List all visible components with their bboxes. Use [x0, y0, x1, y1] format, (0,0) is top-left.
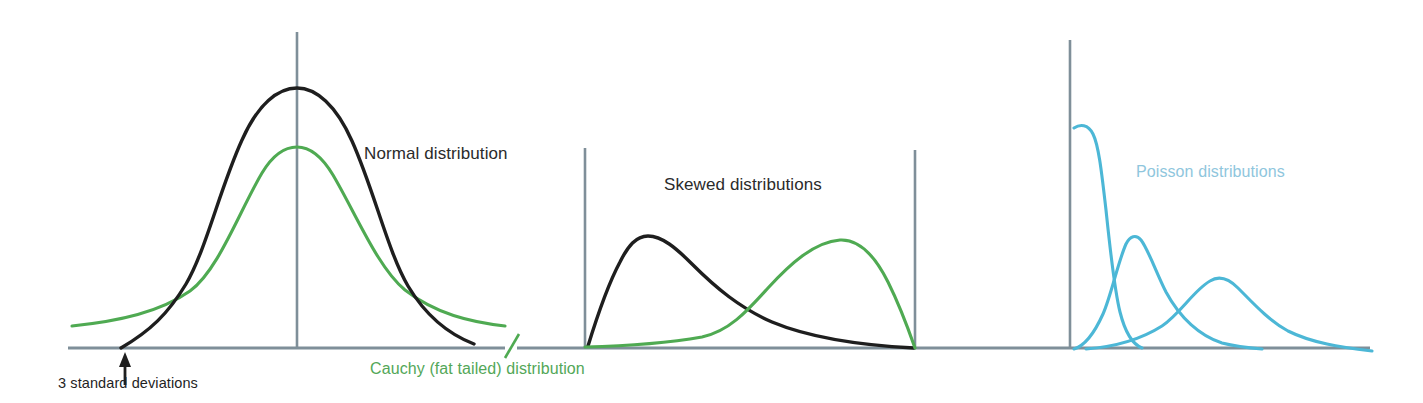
normal-distribution-label: Normal distribution: [364, 144, 508, 164]
arrow-head: [119, 352, 131, 367]
standard-deviations-label: 3 standard deviations: [58, 375, 198, 391]
baseline-axis: [68, 334, 1370, 358]
distributions-figure: Normal distribution Skewed distributions…: [0, 0, 1423, 403]
poisson-curve-medium-lambda: [1074, 237, 1262, 349]
skewed-distributions-label: Skewed distributions: [664, 175, 822, 195]
normal-panel-curves: [72, 88, 505, 348]
skewed-panel-curves: [585, 236, 915, 348]
distributions-svg: [0, 0, 1423, 403]
right-skewed-curve: [588, 236, 914, 348]
poisson-panel-curves: [1074, 126, 1372, 351]
poisson-curve-large-lambda: [1086, 278, 1372, 351]
left-skewed-curve: [585, 240, 915, 348]
cauchy-distribution-label: Cauchy (fat tailed) distribution: [370, 360, 585, 378]
axis-break-slash-icon: [505, 334, 519, 358]
cauchy-fat-tailed-curve: [72, 147, 505, 326]
poisson-distributions-label: Poisson distributions: [1136, 163, 1285, 181]
